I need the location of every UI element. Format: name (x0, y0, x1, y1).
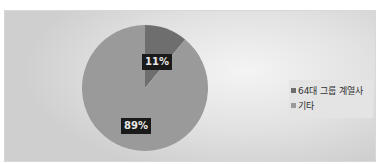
legend-swatch-icon (291, 103, 296, 108)
data-label-slice-2: 89% (121, 118, 151, 134)
legend-swatch-icon (291, 88, 296, 93)
chart-area: 11% 89% 64대 그룹 계열사 기타 (4, 10, 376, 162)
legend: 64대 그룹 계열사 기타 (289, 80, 373, 118)
legend-label: 64대 그룹 계열사 (298, 84, 363, 97)
data-label-slice-1: 11% (142, 54, 172, 70)
legend-item-other: 기타 (291, 98, 371, 113)
legend-label: 기타 (298, 99, 314, 112)
legend-item-group-affiliates: 64대 그룹 계열사 (291, 83, 371, 98)
